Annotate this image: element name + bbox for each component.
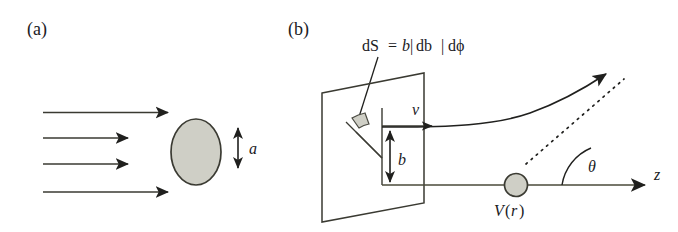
impact-parameter-label-b: b bbox=[398, 151, 406, 168]
panel-b-label: (b) bbox=[288, 19, 309, 40]
panel-a-label: (a) bbox=[27, 19, 47, 40]
formula-equals: = bbox=[388, 37, 397, 54]
formula-db: db bbox=[416, 37, 432, 54]
formula-bar-right: | bbox=[441, 37, 444, 55]
scattering-figure: (a) a (b) dS = b | db | dϕ bbox=[0, 0, 678, 232]
formula-dS: dS bbox=[362, 37, 379, 54]
potential-label: V ( r ) bbox=[494, 202, 524, 220]
formula-bar-left: | bbox=[410, 37, 413, 55]
figure-background bbox=[0, 0, 678, 232]
potential-label-paren-close: ) bbox=[519, 202, 524, 220]
potential-circle bbox=[505, 174, 528, 197]
obstacle-ellipse bbox=[171, 119, 221, 185]
potential-label-paren-open: ( bbox=[505, 202, 510, 220]
theta-label: θ bbox=[588, 158, 596, 175]
potential-label-r: r bbox=[511, 202, 518, 219]
formula-b: b bbox=[402, 37, 410, 54]
z-axis-label: z bbox=[653, 166, 661, 183]
size-label-a: a bbox=[249, 140, 257, 157]
velocity-label-v: v bbox=[412, 101, 420, 118]
formula-dphi: dϕ bbox=[448, 37, 464, 55]
